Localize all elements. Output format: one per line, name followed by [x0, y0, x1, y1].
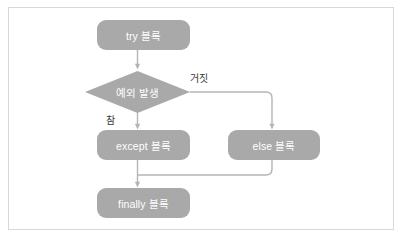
node-except-block-label: except 블록	[116, 138, 171, 153]
node-decision-exception[interactable]: 예외 발생	[85, 71, 190, 113]
node-try-block-label: try 블록	[126, 28, 161, 43]
connector-layer	[0, 0, 410, 245]
node-else-block[interactable]: else 블록	[228, 130, 320, 160]
node-decision-label: 예외 발생	[116, 85, 159, 100]
node-else-block-label: else 블록	[253, 138, 296, 153]
edge-label-true: 참	[106, 112, 115, 127]
node-except-block[interactable]: except 블록	[97, 130, 190, 160]
node-finally-block[interactable]: finally 블록	[97, 188, 190, 218]
node-finally-block-label: finally 블록	[118, 196, 169, 211]
flowchart-figure: try 블록 예외 발생 except 블록 else 블록 finally 블…	[0, 0, 410, 245]
edge-decision-false-to-else	[190, 92, 272, 127]
edge-label-false: 거짓	[190, 70, 208, 85]
node-decision-label-wrap: 예외 발생	[85, 71, 190, 113]
node-try-block[interactable]: try 블록	[97, 20, 190, 50]
edge-else-to-finally	[138, 160, 273, 175]
